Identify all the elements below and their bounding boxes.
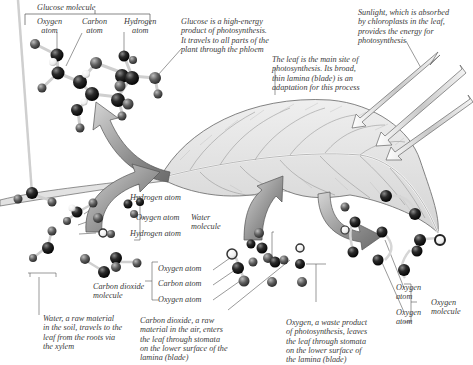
glucose-arrow: [93, 102, 170, 182]
hydrogen-atom: [63, 217, 71, 225]
oxygen-atom: [380, 190, 392, 202]
water-hydrogen-atom-label-1: Hydrogen atom: [130, 193, 181, 202]
carbon-dioxide-caption: Carbon dioxide, a raw material in the ai…: [140, 316, 228, 362]
water-oxygen-atom: [93, 213, 103, 223]
oxygen-atom: [341, 203, 350, 212]
water-hydrogen-atom: [107, 230, 115, 238]
glucose-atom-hydrogen: [38, 84, 47, 93]
water-hydrogen-atom-label-2: Hydrogen atom: [130, 229, 181, 238]
oxygen-atom: [42, 242, 54, 254]
glucose-molecule-title: Glucose molecule: [37, 3, 95, 12]
oxygen-atom-label-1: Oxygen atom: [396, 283, 421, 301]
glucose-atom-hydrogen: [30, 39, 40, 49]
water-caption: Water, a raw material in the soil, trave…: [43, 314, 122, 351]
co2-carbon-atom-label: Carbon atom: [158, 279, 201, 288]
oxygen-atom: [414, 234, 426, 246]
glucose-atom-hydrogen: [118, 112, 127, 121]
oxygen-atom: [341, 226, 349, 234]
hydrogen-atom: [14, 195, 23, 204]
sunlight-arrow-1: [352, 52, 440, 128]
carbon-atom: [98, 266, 110, 278]
hydrogen-atom: [29, 254, 37, 262]
glucose-atom-oxygen: [149, 72, 161, 84]
glucose-atom-hydrogen: [154, 90, 163, 99]
oxygen-atom: [80, 254, 90, 264]
water-hydrogen-atom: [89, 199, 98, 208]
oxygen-atom: [435, 235, 445, 245]
glucose-carbon-atom-label: Carbon atom: [82, 17, 107, 35]
glucose-atom-carbon: [85, 87, 99, 101]
co2-oxygen-atom-label-1: Oxygen atom: [158, 264, 201, 273]
glucose-atom-hydrogen: [76, 124, 85, 133]
glucose-atom-hydrogen: [49, 58, 57, 66]
oxygen-atom-label-2: Oxygen atom: [396, 308, 421, 326]
oxygen-atom: [111, 262, 121, 272]
oxygen-atom: [133, 259, 142, 268]
hydrogen-atom: [69, 205, 76, 212]
oxygen-atom: [377, 227, 388, 238]
glucose-atom-oxygen: [115, 81, 126, 92]
co2-oxygen-atom: [227, 249, 237, 259]
glucose-atom-oxygen: [123, 99, 134, 110]
water-hydrogen-atom: [99, 229, 107, 237]
hydrogen-atom: [48, 227, 57, 236]
co2-oxygen-atom-label-2: Oxygen atom: [158, 295, 201, 304]
glucose-atom-hydrogen: [82, 70, 90, 78]
oxygen-atom: [412, 246, 423, 257]
oxygen-molecule-label: Oxygen molecule: [431, 298, 461, 316]
glucose-atom-hydrogen: [81, 99, 88, 106]
oxygen-atom: [350, 217, 361, 228]
glucose-caption: Glucose is a high-energy product of phot…: [181, 17, 269, 54]
oxygen-atom: [373, 255, 384, 266]
co2-carbon-atom: [232, 262, 244, 274]
hydrogen-atom: [48, 198, 57, 207]
oxygen-atom: [398, 264, 410, 276]
oxygen-atom: [26, 187, 38, 199]
co2-oxygen-atom: [239, 276, 250, 287]
oxygen-caption: Oxygen, a waste product of photosynthesi…: [286, 318, 367, 364]
glucose-hydrogen-atom-label: Hydrogen atom: [124, 17, 156, 35]
oxygen-atom: [348, 247, 359, 258]
water-oxygen-atom-label: Oxygen atom: [136, 213, 179, 222]
glucose-atom-hydrogen: [129, 56, 137, 64]
glucose-atom-oxygen: [71, 104, 83, 116]
leaf-caption: The leaf is the main site of photosynthe…: [272, 55, 360, 92]
glucose-atom-carbon: [52, 67, 65, 80]
glucose-atom-carbon: [125, 71, 139, 85]
sunlight-caption: Sunlight, which is absorbed by chloropla…: [358, 8, 449, 45]
glucose-atom-oxygen: [90, 57, 102, 69]
glucose-oxygen-atom-label: Oxygen atom: [37, 17, 62, 35]
water-molecule-label: Water molecule: [191, 213, 221, 231]
carbon-dioxide-molecule-label: Carbon dioxide molecule: [93, 282, 144, 300]
oxygen-atom: [409, 208, 421, 220]
glucose-atom-hydrogen: [119, 51, 130, 62]
